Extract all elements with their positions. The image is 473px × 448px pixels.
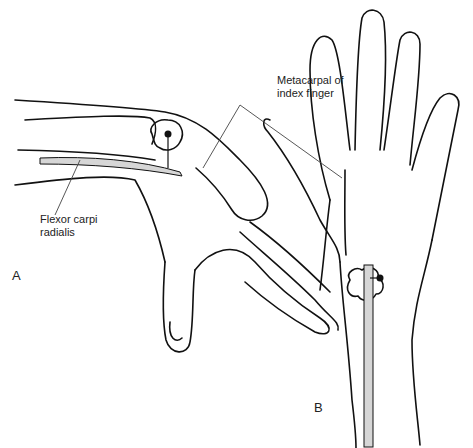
little-finger-b [412,94,459,240]
label-metacarpal-index-finger: Metacarpal of index finger [277,74,344,100]
middle-finger-b [355,10,386,150]
flexor-tendon-b [364,265,373,447]
label-flexor-carpi-radialis: Flexor carpi radialis [40,213,97,239]
thumb-outline [163,262,195,352]
panel-letter-b: B [314,400,323,415]
index-finger-b [310,36,350,200]
ring-finger-b [384,32,420,165]
panel-letter-a: A [12,268,21,283]
anatomy-figure: Metacarpal of index finger Flexor carpi … [0,0,473,448]
index-finger-outline [195,250,329,334]
flexor-tendon-a [40,158,182,176]
